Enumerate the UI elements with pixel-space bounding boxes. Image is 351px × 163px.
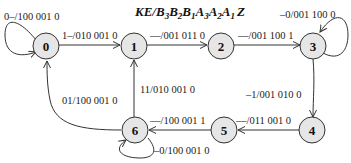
svg-text:2: 2 bbox=[218, 39, 225, 54]
svg-text:6: 6 bbox=[132, 123, 139, 138]
edge-label-6-0: 01/100 001 0 bbox=[62, 95, 117, 106]
edge-label-0-0: 0–/100 001 0 bbox=[4, 11, 59, 22]
svg-text:1: 1 bbox=[131, 39, 138, 54]
edge-label-0-1: 1–/010 001 0 bbox=[62, 30, 117, 41]
state-5: 5 bbox=[211, 117, 237, 143]
state-1: 1 bbox=[121, 33, 147, 59]
edge-label-4-5: ––/011 001 0 bbox=[235, 115, 291, 126]
svg-text:0: 0 bbox=[43, 39, 50, 54]
state-6: 6 bbox=[122, 117, 148, 143]
edge-label-6-1: 11/010 001 0 bbox=[140, 84, 195, 95]
svg-text:5: 5 bbox=[221, 123, 228, 138]
edge-label-5-6: ––/100 001 1 bbox=[149, 115, 205, 126]
edge-0-0 bbox=[5, 22, 36, 54]
svg-text:3: 3 bbox=[310, 39, 317, 54]
edge-label-3-3: –0/001 100 0 bbox=[279, 9, 335, 20]
edge-label-6-6: –0/100 001 0 bbox=[153, 145, 209, 156]
state-4: 4 bbox=[299, 117, 325, 143]
edge-label-2-3: ––/001 100 1 bbox=[237, 30, 293, 41]
edge-label-3-4: –1/001 010 0 bbox=[245, 89, 301, 100]
svg-text:4: 4 bbox=[309, 123, 316, 138]
edge-3-4 bbox=[313, 59, 314, 117]
edge-label-1-2: ––/001 011 0 bbox=[149, 30, 205, 41]
diagram-title: KE/B3B2B1A3A2A1Z bbox=[134, 4, 245, 21]
state-0: 0 bbox=[33, 33, 59, 59]
state-diagram: KE/B3B2B1A3A2A1Z 0–/100 001 0 1–/010 001… bbox=[0, 0, 351, 163]
state-2: 2 bbox=[208, 33, 234, 59]
state-3: 3 bbox=[300, 33, 326, 59]
